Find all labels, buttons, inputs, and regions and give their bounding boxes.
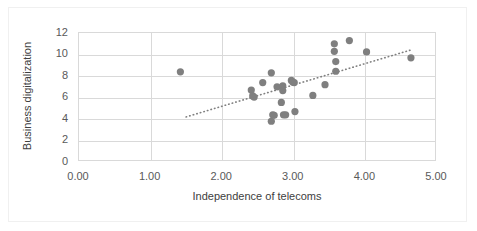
x-axis-tick-label: 0.00 [53, 171, 103, 182]
x-axis-title: Independence of telecoms [78, 190, 436, 202]
chart-figure: Business digitalization Independence of … [0, 0, 477, 231]
x-axis-tick-label: 2.00 [196, 171, 246, 182]
gridline-vertical [365, 33, 366, 160]
y-axis-tick-label: 6 [28, 91, 68, 102]
gridline-horizontal [79, 55, 435, 56]
gridline-horizontal [79, 141, 435, 142]
y-axis-tick-label: 4 [28, 113, 68, 124]
x-axis-tick-label: 3.00 [268, 171, 318, 182]
y-axis-tick-label: 12 [28, 27, 68, 38]
y-axis-tick-label: 0 [28, 156, 68, 167]
y-axis-tick-label: 8 [28, 70, 68, 81]
gridline-horizontal [79, 119, 435, 120]
y-axis-tick-label: 10 [28, 48, 68, 59]
y-axis-tick-label: 2 [28, 134, 68, 145]
gridline-horizontal [79, 98, 435, 99]
x-axis-tick-label: 4.00 [339, 171, 389, 182]
x-axis-tick-label: 1.00 [125, 171, 175, 182]
gridline-vertical [222, 33, 223, 160]
gridline-horizontal [79, 76, 435, 77]
x-axis-tick-label: 5.00 [411, 171, 461, 182]
gridline-vertical [294, 33, 295, 160]
plot-area [78, 32, 436, 161]
gridline-vertical [151, 33, 152, 160]
